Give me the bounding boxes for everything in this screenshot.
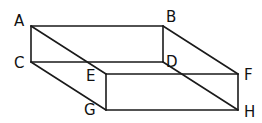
label-e: E <box>86 67 95 85</box>
label-g: G <box>84 101 96 119</box>
label-b: B <box>166 8 176 26</box>
label-a: A <box>14 12 25 30</box>
label-d: D <box>166 53 178 71</box>
label-f: F <box>244 66 253 84</box>
cuboid-diagram: A B C D E F G H <box>0 0 262 123</box>
edges <box>31 26 238 110</box>
label-h: H <box>244 103 255 121</box>
cuboid-svg: A B C D E F G H <box>0 0 262 123</box>
vertex-labels: A B C D E F G H <box>14 8 255 121</box>
label-c: C <box>14 54 24 72</box>
